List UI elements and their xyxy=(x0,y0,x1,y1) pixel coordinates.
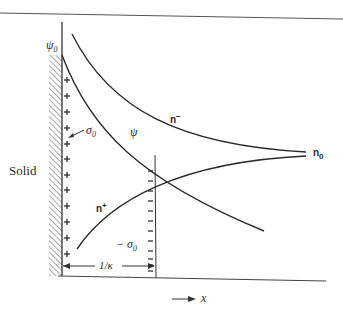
diffuse-minus-charges xyxy=(148,171,153,271)
n-minus-curve xyxy=(72,34,306,152)
debye-arrowhead-right xyxy=(148,263,155,269)
psi0-label: ψ0 xyxy=(46,39,57,54)
n0-subscript: 0 xyxy=(319,152,323,161)
neg-sigma0-prefix: − xyxy=(116,237,124,251)
sigma0-label: σ0 xyxy=(86,124,96,139)
n-plus-superscript: + xyxy=(102,201,107,210)
neg-sigma0-subscript: 0 xyxy=(133,244,137,253)
neg-sigma0-label: − σ0 xyxy=(116,238,137,253)
solid-hatch xyxy=(49,55,62,276)
sigma0-subscript: 0 xyxy=(92,130,96,139)
x-axis-label: x xyxy=(201,292,206,304)
n-plus-curve xyxy=(77,156,306,249)
debye-length-label: 1/κ xyxy=(99,260,113,271)
psi-label: ψ xyxy=(130,126,137,138)
top-rule xyxy=(0,13,343,19)
bottom-axis xyxy=(58,276,326,281)
n0-label: n0 xyxy=(313,148,324,161)
n-minus-superscript: − xyxy=(176,112,181,121)
sigma0-arrowhead xyxy=(68,133,74,138)
x-axis-arrowhead xyxy=(188,296,196,302)
solid-label: Solid xyxy=(9,164,36,177)
n-plus-label: n+ xyxy=(96,202,107,214)
debye-arrowhead-left xyxy=(63,263,70,269)
psi0-subscript: 0 xyxy=(53,45,57,54)
n-minus-label: n− xyxy=(170,113,181,125)
surface-plus-charges xyxy=(64,77,70,257)
